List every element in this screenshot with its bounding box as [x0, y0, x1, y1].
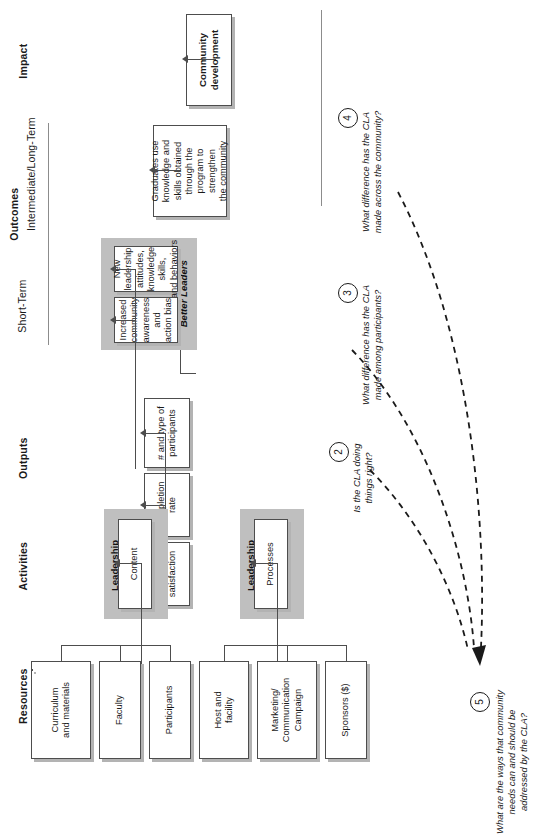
question-marker-2-number: 2 [334, 449, 344, 455]
resource-rail-host [224, 645, 225, 661]
resource-box-1-label: Curriculum and materials [50, 664, 73, 756]
arrowhead-short1 [110, 265, 116, 273]
question-text-4: What difference has the CLA made across … [360, 97, 384, 247]
question-text-2: Is the CLA doing things right? [351, 433, 375, 523]
column-label-outputs: Outputs [17, 427, 29, 489]
connector-shortterm-longterm [153, 170, 181, 171]
column-label-outcomes: Outcomes [8, 184, 20, 244]
connector-longterm-impact [186, 59, 216, 60]
resource-rail-sponsors [346, 645, 347, 661]
resource-rail-marketing [287, 645, 288, 661]
impact-box[interactable]: Community development [186, 14, 232, 106]
column-label-longterm: Intermediate/Long-Term [25, 114, 37, 234]
resource-box-participants[interactable]: Participants [149, 661, 191, 759]
question-marker-3[interactable]: 3 [338, 283, 358, 303]
resource-rail-participants [170, 645, 171, 661]
arrowhead-act1 [114, 559, 120, 567]
resource-box-5-label: Marketing/ Communication Campaign [270, 664, 304, 756]
connector-outputs-bus [135, 269, 136, 469]
arrowhead-impact [182, 55, 188, 63]
question-marker-4[interactable]: 4 [338, 108, 358, 128]
impact-label: Community development [197, 16, 221, 104]
resource-box-2[interactable] [31, 669, 33, 671]
connector-activities-out1 [144, 433, 166, 434]
longterm-outcome-label: Graduates use knowledge and skills obtai… [150, 127, 229, 215]
resource-box-1[interactable]: Curriculum and materials [31, 661, 91, 759]
resource-rail-bus-b [224, 645, 346, 646]
resource-box-faculty[interactable]: Faculty [99, 661, 141, 759]
resource-box-sponsors[interactable]: Sponsors ($) [325, 661, 367, 759]
connector-outputs-short2 [114, 320, 136, 321]
arrowhead-out2 [140, 501, 146, 509]
question-marker-4-number: 4 [343, 115, 353, 121]
resource-box-2-label: Faculty [114, 664, 125, 756]
outcomes-divider-left [48, 123, 49, 345]
question-text-3: What difference has the CLA made among p… [360, 275, 384, 415]
longterm-outcome-box[interactable]: Graduates use knowledge and skills obtai… [153, 125, 227, 217]
column-label-impact: Impact [17, 31, 29, 91]
arrowhead-short2 [110, 316, 116, 324]
question-marker-3-number: 3 [343, 290, 353, 296]
outcomes-divider-right [321, 10, 322, 206]
resource-box-3-label: Participants [164, 664, 175, 756]
activity-box-content[interactable]: Content [118, 519, 152, 609]
resource-rail-faculty [120, 645, 121, 661]
question-marker-5-number: 5 [475, 699, 485, 705]
question-marker-5[interactable]: 5 [470, 692, 490, 712]
question-text-5: What are the ways that community needs c… [494, 673, 531, 838]
arrowhead-act2 [250, 559, 256, 567]
resource-box-6-label: Sponsors ($) [340, 664, 351, 756]
resource-box-4-label: Host and facility [213, 664, 236, 756]
resource-rail-bus-a [61, 645, 171, 646]
arrowhead-out1 [140, 429, 146, 437]
resource-rail-left [61, 645, 62, 661]
connector-activities-out2 [144, 505, 166, 506]
activity-box-processes[interactable]: Processes [254, 519, 288, 609]
connector-res-act1 [118, 563, 142, 564]
column-label-shortterm: Short-Term [16, 271, 28, 341]
connector-res-act2 [254, 563, 278, 564]
connector-outputs-short1 [114, 269, 136, 270]
resource-box-host[interactable]: Host and facility [199, 661, 249, 759]
column-label-activities: Activities [17, 534, 29, 598]
activity-box-content-label: Content [129, 521, 140, 607]
question-marker-2[interactable]: 2 [329, 442, 349, 462]
connector-shortterm-branch-b [180, 373, 196, 374]
activity-box-processes-label: Processes [265, 521, 276, 607]
resource-box-marketing[interactable]: Marketing/ Communication Campaign [257, 661, 317, 759]
column-label-resources: Resources [17, 664, 29, 728]
arrowhead-longterm [149, 166, 155, 174]
